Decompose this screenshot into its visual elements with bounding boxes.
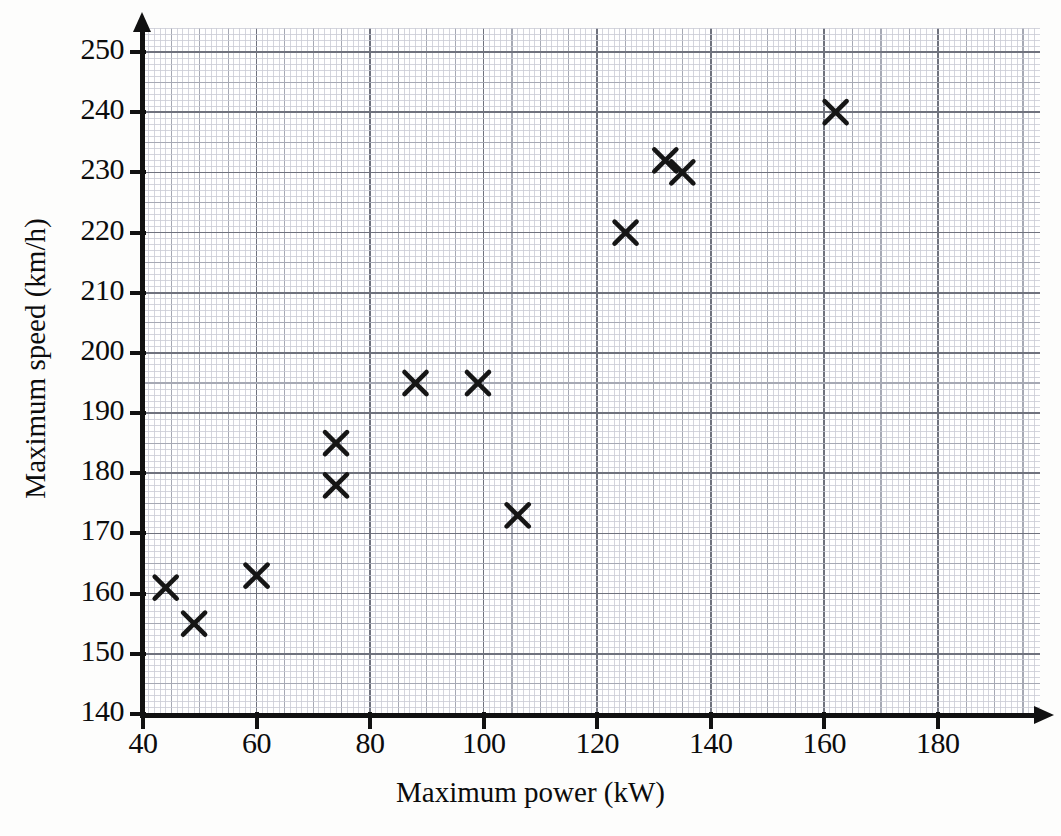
data-point-marker	[155, 577, 177, 599]
x-axis-tick-label: 120	[537, 726, 657, 760]
y-axis-tick	[130, 110, 146, 114]
y-axis-tick-label: 150	[81, 634, 125, 668]
data-point-marker	[507, 504, 529, 526]
y-axis-tick-label: 240	[81, 92, 125, 126]
data-point-marker	[325, 474, 347, 496]
y-axis-arrow-icon	[133, 12, 151, 32]
x-axis-tick-label: 60	[197, 726, 317, 760]
data-point-marker	[325, 432, 347, 454]
scatter-chart-figure: 1401501601701801902002102202302402504060…	[0, 0, 1061, 836]
y-axis-tick	[130, 231, 146, 235]
y-axis-tick-label: 170	[81, 513, 125, 547]
y-axis-tick-label: 250	[81, 32, 125, 66]
data-point-marker	[183, 613, 205, 635]
data-point-marker	[467, 372, 489, 394]
data-point-layer	[143, 28, 1040, 714]
plot-area	[143, 28, 1040, 714]
y-axis-tick-label: 220	[81, 213, 125, 247]
x-axis-tick-label: 140	[651, 726, 771, 760]
x-axis-tick-label: 180	[878, 726, 998, 760]
y-axis-tick	[130, 170, 146, 174]
y-axis-tick	[130, 50, 146, 54]
data-point-marker	[615, 222, 637, 244]
x-axis-line	[140, 713, 1038, 718]
y-axis-tick	[130, 351, 146, 355]
x-axis-arrow-icon	[1034, 706, 1054, 724]
y-axis-tick-label: 200	[81, 333, 125, 367]
y-axis-tick	[130, 291, 146, 295]
y-axis-tick-label: 210	[81, 273, 125, 307]
y-axis-tick-label: 230	[81, 152, 125, 186]
y-axis-tick	[130, 531, 146, 535]
data-point-marker	[825, 101, 847, 123]
y-axis-tick	[130, 652, 146, 656]
y-axis-tick	[130, 592, 146, 596]
data-point-marker	[405, 372, 427, 394]
y-axis-tick-label: 140	[81, 694, 125, 728]
x-axis-tick-label: 80	[310, 726, 430, 760]
x-axis-tick-label: 40	[83, 726, 203, 760]
y-axis-tick	[130, 471, 146, 475]
x-axis-tick-label: 100	[424, 726, 544, 760]
y-axis-tick-label: 160	[81, 574, 125, 608]
y-axis-title: Maximum speed (km/h)	[19, 109, 52, 609]
y-axis-tick-label: 190	[81, 393, 125, 427]
y-axis-tick	[130, 411, 146, 415]
x-axis-tick-label: 160	[764, 726, 884, 760]
x-axis-title: Maximum power (kW)	[0, 776, 1061, 809]
data-point-marker	[246, 565, 268, 587]
y-axis-line	[140, 26, 145, 718]
y-axis-tick-label: 180	[81, 453, 125, 487]
